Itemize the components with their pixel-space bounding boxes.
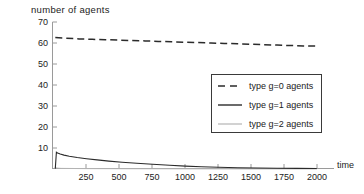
x-tick-label-1250: 1250 (203, 172, 233, 182)
x-tick-label-250: 250 (71, 172, 101, 182)
y-tick-label-30: 30 (26, 101, 48, 111)
x-tick-label-1750: 1750 (269, 172, 299, 182)
legend-label-type-g1: type g=1 agents (249, 100, 313, 110)
y-tick-label-10: 10 (26, 143, 48, 153)
y-tick-marks (53, 22, 58, 148)
chart-legend: type g=0 agents type g=1 agents type g=2… (211, 74, 322, 133)
x-tick-label-750: 750 (137, 172, 167, 182)
legend-item-type-g0: type g=0 agents (212, 76, 323, 95)
x-tick-label-1000: 1000 (170, 172, 200, 182)
series-line-type-g1 (55, 152, 317, 168)
legend-swatch-dashed-icon (217, 80, 243, 92)
x-tick-label-500: 500 (104, 172, 134, 182)
y-tick-label-70: 70 (26, 17, 48, 27)
legend-label-type-g0: type g=0 agents (249, 81, 313, 91)
legend-item-type-g2: type g=2 agents (212, 114, 323, 133)
y-tick-label-40: 40 (26, 80, 48, 90)
legend-label-type-g2: type g=2 agents (249, 119, 313, 129)
x-tick-label-1500: 1500 (236, 172, 266, 182)
x-tick-label-2000: 2000 (302, 172, 332, 182)
series-line-type-g0 (55, 38, 316, 47)
legend-item-type-g1: type g=1 agents (212, 95, 323, 114)
legend-swatch-solid-gray-icon (217, 118, 243, 130)
chart-figure: number of agents time (0, 0, 364, 194)
y-tick-label-20: 20 (26, 122, 48, 132)
legend-swatch-solid-dark-icon (217, 99, 243, 111)
y-tick-label-50: 50 (26, 59, 48, 69)
y-tick-label-60: 60 (26, 38, 48, 48)
